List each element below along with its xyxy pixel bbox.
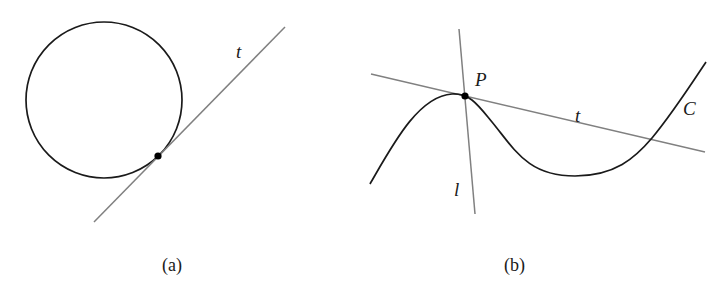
curve-c bbox=[370, 62, 706, 184]
label-p: P bbox=[474, 69, 487, 90]
tangent-line-t-b bbox=[371, 74, 705, 152]
normal-line-l bbox=[459, 29, 475, 214]
tangent-point-a bbox=[154, 152, 161, 159]
point-p bbox=[461, 92, 468, 99]
panel-a: t (a) bbox=[26, 22, 285, 276]
figure-canvas: t (a) P t C l (b) bbox=[0, 0, 722, 291]
label-t-a: t bbox=[236, 41, 242, 62]
label-c: C bbox=[683, 98, 696, 119]
panel-b: P t C l (b) bbox=[370, 29, 706, 276]
label-l: l bbox=[454, 179, 459, 200]
label-t-b: t bbox=[575, 105, 581, 126]
tangent-line-t-a bbox=[94, 27, 285, 222]
tangent-lines-figure: t (a) P t C l (b) bbox=[0, 0, 722, 291]
caption-b: (b) bbox=[504, 255, 525, 276]
caption-a: (a) bbox=[162, 255, 182, 276]
